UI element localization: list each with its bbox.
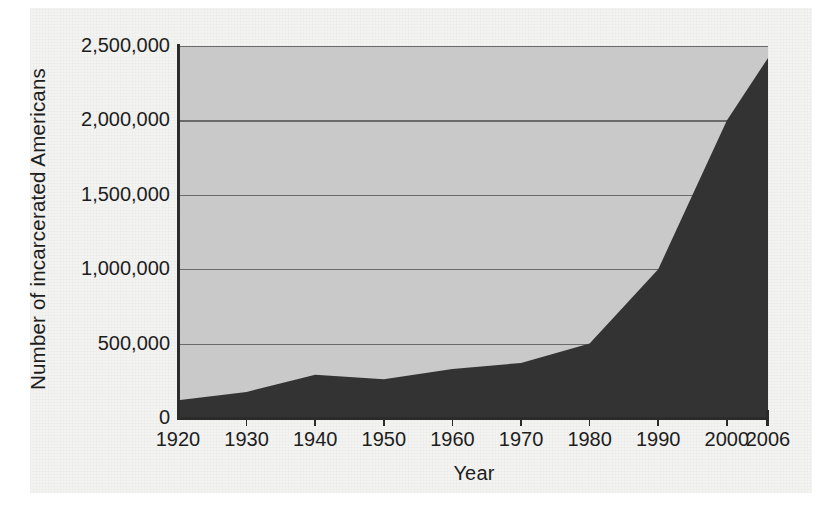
- figure-root: 0500,0001,000,0001,500,0002,000,0002,500…: [0, 0, 835, 522]
- y-axis-title: Number of incarcerated Americans: [26, 90, 50, 390]
- x-axis-title: Year: [419, 462, 529, 485]
- area-chart: [0, 0, 835, 522]
